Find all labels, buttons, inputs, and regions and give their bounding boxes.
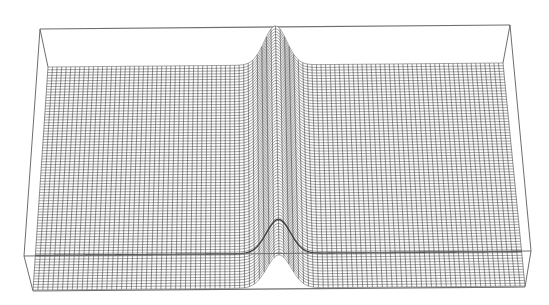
box-right-front-edge [525, 251, 531, 287]
surface-mesh [33, 26, 525, 290]
surface-plot [0, 0, 549, 305]
box-left-diagonal [40, 29, 48, 67]
box-right-diagonal [503, 25, 510, 63]
box-left-front-edge [24, 256, 33, 291]
